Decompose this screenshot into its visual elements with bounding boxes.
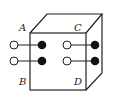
open-circle-B	[10, 57, 18, 65]
open-circle-D	[63, 57, 71, 65]
cube-diagram: A C B D	[0, 0, 113, 100]
dumbbell-A	[10, 41, 46, 50]
open-circle-A	[10, 41, 18, 49]
label-A: A	[18, 22, 26, 33]
dumbbell-D	[63, 57, 99, 66]
label-C: C	[74, 22, 82, 33]
label-B: B	[18, 76, 26, 87]
cube-side-face	[86, 14, 102, 90]
dumbbell-C	[63, 41, 99, 50]
dumbbell-B	[10, 57, 46, 66]
open-circle-C	[63, 41, 71, 49]
filled-circle-C	[91, 41, 100, 50]
cube	[30, 14, 102, 90]
filled-circle-D	[91, 57, 100, 66]
label-D: D	[73, 76, 82, 87]
cube-top-face	[30, 14, 102, 33]
filled-circle-B	[38, 57, 47, 66]
filled-circle-A	[38, 41, 47, 50]
